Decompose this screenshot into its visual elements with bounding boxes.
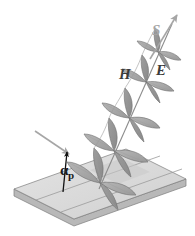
lobe-e-3 bbox=[124, 88, 132, 118]
incidence-angle-label: αp bbox=[60, 163, 74, 181]
poynting-vector-label: S bbox=[152, 23, 160, 38]
incident-beam-arrow bbox=[35, 131, 69, 154]
lobe-e-2 bbox=[108, 118, 117, 151]
alpha-subscript: p bbox=[68, 169, 74, 181]
em-wave-diagram bbox=[0, 0, 195, 236]
figure-root: S H E αp bbox=[0, 0, 195, 236]
electric-field-label: E bbox=[156, 63, 166, 78]
magnetic-field-label: H bbox=[119, 67, 131, 82]
